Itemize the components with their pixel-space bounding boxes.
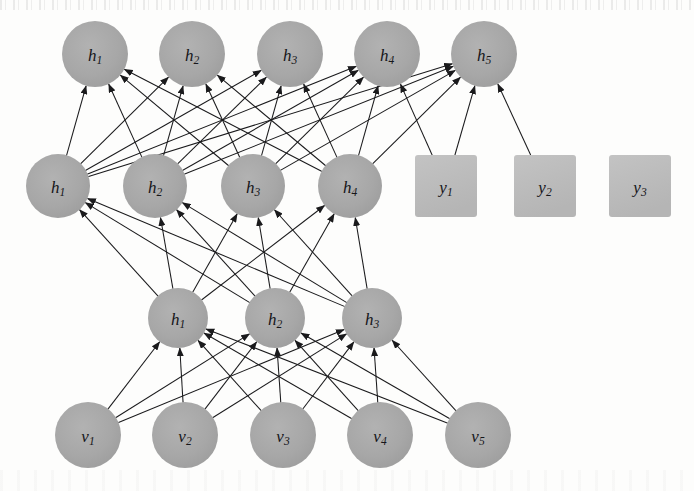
node-h5[interactable]: h5 [451,21,517,87]
edge-bidirectional [202,205,325,299]
edge-bidirectional [304,84,337,157]
edge-bidirectional [182,203,346,303]
edge-bidirectional [120,75,228,165]
node-v1[interactable]: v1 [55,402,121,468]
edge-bidirectional [498,84,531,155]
node-h4[interactable]: h4 [318,154,382,218]
edge-bidirectional [193,214,237,292]
edge-bidirectional [119,329,345,422]
node-h2[interactable]: h2 [159,21,225,87]
edge-bidirectional [108,342,160,409]
edge-bidirectional [392,340,456,410]
edge-bidirectional [359,86,378,155]
edge-bidirectional [180,348,183,402]
edge-bidirectional [400,84,432,155]
node-h1[interactable]: h1 [62,21,128,87]
node-h3[interactable]: h3 [221,154,285,218]
node-y2[interactable]: y2 [514,155,576,217]
edges-group [67,64,531,423]
node-h3[interactable]: h3 [342,288,402,348]
node-h2[interactable]: h2 [245,288,305,348]
edge-bidirectional [303,342,354,409]
edge-bidirectional [355,218,367,289]
edge-bidirectional [164,86,183,155]
node-h1[interactable]: h1 [148,288,208,348]
edge-bidirectional [206,329,447,423]
node-v4[interactable]: v4 [347,402,413,468]
network-diagram: h1h2h3h4h5h1h2h3h4y1y2y3h1h2h3v1v2v3v4v5 [0,0,694,491]
node-v5[interactable]: v5 [445,402,511,468]
edge-bidirectional [185,66,454,174]
node-h3[interactable]: h3 [257,21,323,87]
edge-bidirectional [198,340,261,410]
node-h1[interactable]: h1 [26,154,90,218]
network-graph-canvas: h1h2h3h4h5h1h2h3h4y1y2y3h1h2h3v1v2v3v4v5 [0,0,694,491]
edge-bidirectional [160,218,172,289]
edge-bidirectional [217,75,325,165]
edge-bidirectional [290,214,334,292]
edge-bidirectional [455,86,475,155]
edge-bidirectional [205,342,257,409]
node-v3[interactable]: v3 [250,402,316,468]
node-h4[interactable]: h4 [354,21,420,87]
edge-bidirectional [88,198,345,306]
node-v2[interactable]: v2 [152,402,218,468]
node-y1[interactable]: y1 [415,155,477,217]
edge-bidirectional [85,203,249,303]
node-h2[interactable]: h2 [123,154,187,218]
nodes-group: h1h2h3h4h5h1h2h3h4y1y2y3h1h2h3v1v2v3v4v5 [26,21,671,468]
node-y3[interactable]: y3 [609,155,671,217]
edge-bidirectional [109,84,142,157]
edge-bidirectional [67,86,86,155]
